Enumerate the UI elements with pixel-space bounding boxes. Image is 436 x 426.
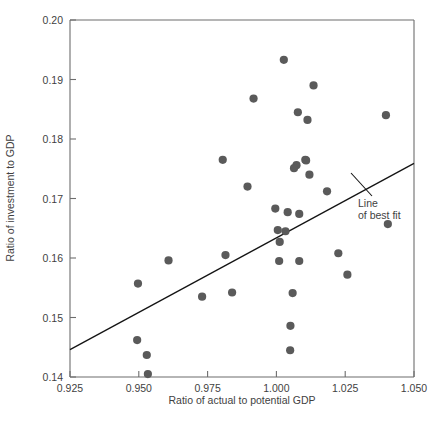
data-point xyxy=(198,293,206,301)
data-point xyxy=(382,111,390,119)
y-axis-ticks: 0.140.150.160.170.180.190.20 xyxy=(43,14,76,383)
y-tick-label: 0.20 xyxy=(43,14,64,26)
data-point xyxy=(289,289,297,297)
data-point xyxy=(286,322,294,330)
data-point xyxy=(144,370,152,378)
data-point xyxy=(334,249,342,257)
y-tick-label: 0.16 xyxy=(43,252,64,264)
data-point xyxy=(294,108,302,116)
x-tick-label: 0.950 xyxy=(126,382,152,394)
data-point xyxy=(281,227,289,235)
data-point xyxy=(249,94,257,102)
x-tick-label: 1.000 xyxy=(263,382,289,394)
data-point xyxy=(133,336,141,344)
x-tick-label: 1.050 xyxy=(401,382,427,394)
data-point xyxy=(134,279,142,287)
data-point xyxy=(228,288,236,296)
fit-line-annotation-line2: of best fit xyxy=(358,209,401,221)
data-point xyxy=(286,346,294,354)
data-point xyxy=(219,156,227,164)
data-point xyxy=(276,238,284,246)
chart-canvas: 0.140.150.160.170.180.190.20 0.9250.9500… xyxy=(0,0,436,426)
data-point xyxy=(384,220,392,228)
y-axis-title: Ratio of investment to GDP xyxy=(4,134,16,261)
x-tick-label: 0.925 xyxy=(57,382,83,394)
x-axis-ticks: 0.9250.9500.9751.0001.0251.050 xyxy=(57,371,427,394)
data-point xyxy=(302,156,310,164)
x-tick-label: 1.025 xyxy=(332,382,358,394)
scatter-chart-figure: 0.140.150.160.170.180.190.20 0.9250.9500… xyxy=(0,0,436,426)
line-of-best-fit xyxy=(70,163,414,349)
data-point xyxy=(290,164,298,172)
data-point xyxy=(275,257,283,265)
data-point xyxy=(295,257,303,265)
x-tick-label: 0.975 xyxy=(194,382,220,394)
data-points xyxy=(133,56,392,378)
data-point xyxy=(295,210,303,218)
fit-line-annotation-line1: Line xyxy=(358,197,378,209)
data-point xyxy=(243,183,251,191)
data-point xyxy=(323,187,331,195)
y-tick-label: 0.18 xyxy=(43,133,64,145)
y-tick-label: 0.15 xyxy=(43,312,64,324)
data-point xyxy=(303,116,311,124)
data-point xyxy=(164,256,172,264)
data-point xyxy=(271,205,279,213)
y-tick-label: 0.17 xyxy=(43,193,64,205)
x-axis-title: Ratio of actual to potential GDP xyxy=(168,394,315,406)
y-tick-label: 0.19 xyxy=(43,74,64,86)
data-point xyxy=(280,56,288,64)
data-point xyxy=(343,271,351,279)
data-point xyxy=(305,171,313,179)
data-point xyxy=(274,226,282,234)
data-point xyxy=(284,208,292,216)
data-point xyxy=(221,251,229,259)
data-point xyxy=(309,81,317,89)
data-point xyxy=(143,351,151,359)
